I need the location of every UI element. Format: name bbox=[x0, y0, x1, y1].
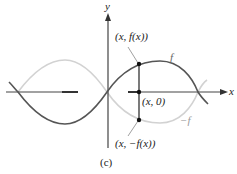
point-zero-marker bbox=[137, 90, 141, 94]
point-neg-f-label: (x, −f(x)) bbox=[115, 138, 155, 149]
point-neg-f-marker bbox=[137, 118, 141, 122]
leader-neg-f bbox=[128, 121, 138, 136]
neg-f-curve-label: −f bbox=[180, 115, 190, 126]
point-f-label: (x, f(x)) bbox=[115, 31, 148, 42]
leader-f bbox=[128, 47, 138, 63]
figure-caption: (c) bbox=[100, 157, 112, 168]
y-axis-arrow-icon bbox=[105, 13, 111, 21]
y-axis-label: y bbox=[105, 1, 110, 12]
f-curve-label: f bbox=[170, 52, 173, 63]
point-f-marker bbox=[137, 62, 141, 66]
point-zero-label: (x, 0) bbox=[142, 96, 165, 107]
x-axis-arrow-icon bbox=[220, 89, 228, 95]
x-axis-label: x bbox=[229, 86, 234, 97]
reflection-diagram: y x (x, f(x)) (x, 0) (x, −f(x)) f −f (c) bbox=[0, 0, 237, 174]
